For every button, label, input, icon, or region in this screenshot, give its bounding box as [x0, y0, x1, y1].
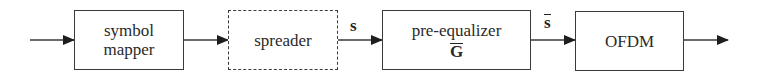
- spreader-block: spreader: [228, 10, 338, 70]
- pre-equalizer-block: pre-equalizer G: [382, 10, 531, 70]
- signal-s-label: s: [350, 16, 357, 36]
- ofdm-label: OFDM: [605, 32, 654, 51]
- signal-s-bar-label: s: [544, 13, 551, 33]
- spreader-label: spreader: [254, 31, 312, 50]
- symbol-mapper-label-line2: mapper: [104, 40, 155, 59]
- ofdm-block: OFDM: [575, 11, 684, 71]
- matrix-g-bar-symbol: G: [450, 43, 463, 60]
- block-diagram: symbol mapper spreader s pre-equalizer G…: [0, 0, 761, 79]
- symbol-mapper-block: symbol mapper: [74, 10, 184, 70]
- symbol-mapper-label-line1: symbol: [104, 21, 154, 40]
- s-bar-symbol: s: [544, 14, 551, 31]
- pre-equalizer-label: pre-equalizer: [412, 21, 502, 40]
